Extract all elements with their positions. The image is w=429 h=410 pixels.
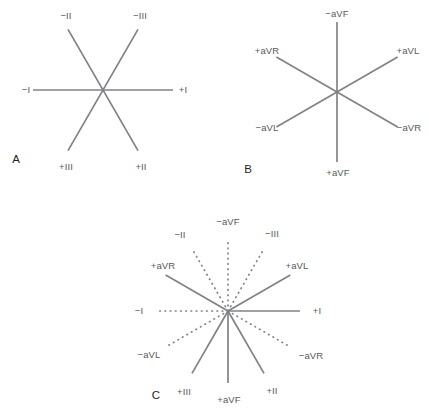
panel-c-label-neg-avf: −aVF [216, 217, 239, 227]
axis-lead-aVL-positive [228, 275, 290, 311]
panel-c-label-neg-i: −I [135, 306, 143, 316]
panel-b-label-pos-avr: +aVR [255, 46, 279, 56]
hexaxial-reference-figure: A −II −III −I +I +III +II B −aVF +aVR +a… [0, 0, 429, 410]
panel-b-label-neg-avf: −aVF [325, 9, 348, 19]
panel-c-label-neg-ii: −II [174, 230, 185, 240]
panel-c-label-pos-avr: +aVR [151, 261, 175, 271]
axis-lead-aVL-negative [166, 311, 228, 347]
panel-c-label-pos-iii: +III [177, 387, 191, 397]
panel-letter-a: A [12, 154, 20, 166]
axis-lead-II-positive [228, 311, 264, 373]
panel-b-label-pos-avf: +aVF [326, 168, 349, 178]
axis-lead-II-negative [192, 249, 228, 311]
panel-a-label-pos-iii: +III [59, 162, 73, 172]
panel-a-label-pos-ii: +II [135, 162, 146, 172]
all-panel-axes [33, 22, 398, 383]
panel-b-label-pos-avl: +aVL [397, 46, 420, 56]
panel-c-label-pos-i: +I [313, 306, 321, 316]
panel-letter-b: B [244, 164, 252, 176]
panel-c-label-neg-avr: −aVR [299, 351, 323, 361]
axis-lead-III-negative [228, 249, 264, 311]
panel-a-label-pos-i: +I [179, 85, 187, 95]
panel-c-label-neg-avl: −aVL [138, 350, 161, 360]
panel-b-label-neg-avl: −aVL [256, 123, 279, 133]
axis-lead-III-positive [192, 311, 228, 373]
panel-a-label-neg-i: −I [22, 85, 30, 95]
panel-c-label-pos-avf: +aVF [217, 395, 240, 405]
panel-b-label-neg-avr: −aVR [397, 123, 421, 133]
axes-layer [0, 0, 429, 410]
panel-a-label-neg-iii: −III [133, 11, 147, 21]
panel-c-label-neg-iii: −III [265, 229, 279, 239]
axis-lead-aVR-positive [166, 275, 228, 311]
axis-lead-aVR-negative [228, 311, 290, 347]
panel-a-label-neg-ii: −II [60, 11, 71, 21]
panel-letter-c: C [152, 390, 160, 402]
panel-c-label-pos-ii: +II [266, 386, 277, 396]
panel-c-label-pos-avl: +aVL [286, 261, 309, 271]
